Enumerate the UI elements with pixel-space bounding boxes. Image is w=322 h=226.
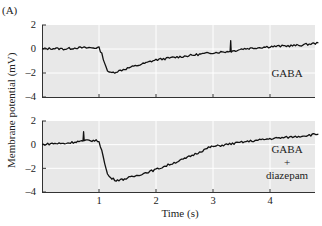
bottom-annotation-line1: GABA xyxy=(258,143,316,156)
chart-canvas xyxy=(0,0,322,226)
bottom-annotation: GABA + diazepam xyxy=(258,143,316,182)
top-annotation: GABA xyxy=(262,67,312,80)
bottom-annotation-line3: diazepam xyxy=(258,169,316,182)
plot-background xyxy=(43,25,315,97)
top-panel xyxy=(42,25,318,98)
bottom-annotation-line2: + xyxy=(258,156,316,169)
